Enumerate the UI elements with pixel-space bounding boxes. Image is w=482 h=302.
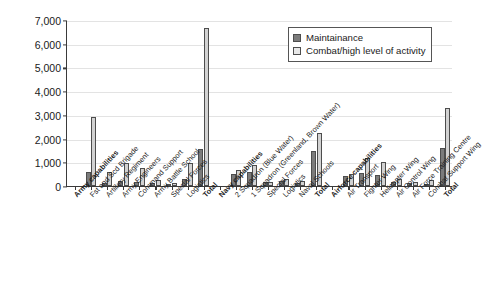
x-tick-mark xyxy=(316,186,317,190)
x-tick-mark xyxy=(252,186,253,190)
bar-maintainance xyxy=(150,183,155,186)
x-tick-mark xyxy=(236,186,237,190)
bar-combat xyxy=(268,182,273,186)
x-tick-mark xyxy=(332,186,333,190)
bar-maintainance xyxy=(359,173,364,186)
y-tick-label: 1,000 xyxy=(35,157,67,169)
y-tick-label: 4,000 xyxy=(35,86,67,98)
bar-maintainance xyxy=(86,172,91,186)
x-tick-mark xyxy=(139,186,140,190)
y-tick-label: 6,000 xyxy=(35,39,67,51)
bar-combat xyxy=(429,180,434,186)
bar-maintainance xyxy=(198,149,203,186)
bar-group xyxy=(212,21,228,186)
x-tick-mark xyxy=(397,186,398,190)
x-tick-mark xyxy=(188,186,189,190)
x-tick-mark xyxy=(445,186,446,190)
y-tick-label: 5,000 xyxy=(35,62,67,74)
bar-group xyxy=(437,21,453,186)
chart-legend: Maintainance Combat/high level of activi… xyxy=(288,27,432,62)
y-tick-label: 7,000 xyxy=(35,15,67,27)
bar-combat xyxy=(236,170,241,186)
x-tick-mark xyxy=(123,186,124,190)
bar-group xyxy=(99,21,115,186)
bar-combat xyxy=(107,172,112,186)
bar-maintainance xyxy=(231,174,236,186)
y-tick-label: 2,000 xyxy=(35,134,67,146)
x-tick-mark xyxy=(220,186,221,190)
bar-maintainance xyxy=(279,181,284,186)
bar-maintainance xyxy=(440,148,445,186)
legend-swatch-maintainance xyxy=(293,34,301,42)
bar-group xyxy=(260,21,276,186)
bar-combat xyxy=(300,181,305,186)
x-tick-mark xyxy=(204,186,205,190)
bar-combat xyxy=(317,133,322,186)
bar-combat xyxy=(397,179,402,186)
bar-combat xyxy=(204,28,209,186)
bar-maintainance xyxy=(391,182,396,187)
legend-item-combat: Combat/high level of activity xyxy=(293,44,425,57)
bar-group xyxy=(67,21,83,186)
bar-group xyxy=(180,21,196,186)
bar-combat xyxy=(140,168,145,186)
bar-group xyxy=(131,21,147,186)
legend-swatch-combat xyxy=(293,47,301,55)
bar-maintainance xyxy=(295,183,300,186)
bar-maintainance xyxy=(166,184,171,186)
y-tick-label: 3,000 xyxy=(35,110,67,122)
bar-combat xyxy=(91,117,96,186)
bar-group xyxy=(244,21,260,186)
bar-combat xyxy=(445,108,450,186)
bar-maintainance xyxy=(375,175,380,186)
bar-combat xyxy=(349,174,354,186)
bar-combat xyxy=(252,165,257,186)
x-tick-mark xyxy=(429,186,430,190)
bar-group xyxy=(164,21,180,186)
x-tick-mark xyxy=(107,186,108,190)
bar-maintainance xyxy=(424,184,429,186)
x-tick-mark xyxy=(365,186,366,190)
legend-label-combat: Combat/high level of activity xyxy=(306,45,425,56)
bar-combat xyxy=(188,163,193,186)
x-tick-mark xyxy=(172,186,173,190)
x-tick-mark xyxy=(284,186,285,190)
bar-maintainance xyxy=(118,181,123,186)
x-tick-mark xyxy=(155,186,156,190)
x-tick-mark xyxy=(91,186,92,190)
x-tick-mark xyxy=(75,186,76,190)
bar-maintainance xyxy=(407,183,412,186)
bar-group xyxy=(228,21,244,186)
y-tick-label: 0 xyxy=(55,181,67,193)
bar-maintainance xyxy=(134,182,139,186)
legend-item-maintainance: Maintainance xyxy=(293,31,425,44)
bar-maintainance xyxy=(102,183,107,186)
x-tick-mark xyxy=(268,186,269,190)
bar-combat xyxy=(365,158,370,186)
bar-maintainance xyxy=(247,172,252,186)
x-tick-mark xyxy=(381,186,382,190)
bar-group xyxy=(83,21,99,186)
bar-combat xyxy=(413,182,418,186)
bar-maintainance xyxy=(343,176,348,186)
bar-combat xyxy=(172,183,177,186)
bar-group xyxy=(147,21,163,186)
bar-maintainance xyxy=(311,151,316,186)
bar-group xyxy=(196,21,212,186)
bar-combat xyxy=(156,180,161,186)
x-tick-mark xyxy=(413,186,414,190)
bar-maintainance xyxy=(182,179,187,186)
bar-maintainance xyxy=(263,182,268,186)
bar-group xyxy=(115,21,131,186)
legend-label-maintainance: Maintainance xyxy=(306,32,363,43)
x-tick-mark xyxy=(300,186,301,190)
bar-combat xyxy=(284,179,289,186)
bar-combat xyxy=(124,163,129,186)
bar-combat xyxy=(381,162,386,186)
x-tick-mark xyxy=(348,186,349,190)
